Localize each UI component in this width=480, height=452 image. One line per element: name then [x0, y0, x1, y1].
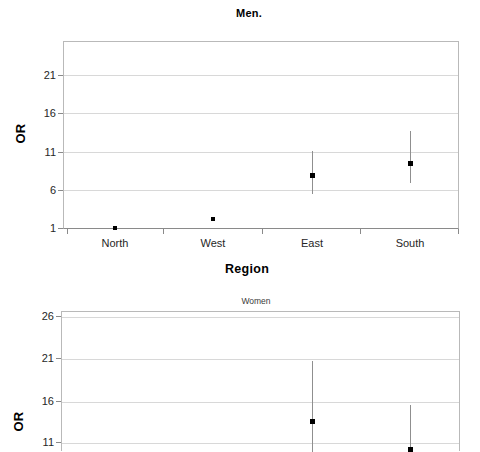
y-tick-label-women-26: 26	[28, 310, 54, 322]
gridline-women-26	[62, 317, 459, 318]
data-point-men-east	[310, 173, 315, 178]
plot-area-women	[61, 311, 460, 451]
gridline-men-21	[64, 75, 458, 76]
gridline-men-16	[64, 113, 458, 114]
gridline-women-16	[62, 402, 459, 403]
y-axis-title-men: OR	[13, 119, 28, 149]
y-tick-label-men-6: 6	[30, 184, 56, 196]
data-point-women-south	[408, 447, 413, 452]
gridline-women-21	[62, 359, 459, 360]
x-tick-label-men-east: East	[277, 237, 347, 249]
gridline-women-11	[62, 443, 459, 444]
x-axis-title-men: Region	[7, 262, 480, 276]
y-tick-label-men-11: 11	[30, 146, 56, 158]
x-tick-mark-men-3	[360, 229, 361, 234]
y-axis-title-women: OR	[11, 407, 26, 437]
y-tick-label-men-21: 21	[30, 69, 56, 81]
y-tick-label-men-16: 16	[30, 107, 56, 119]
x-tick-mark-men-0	[67, 229, 68, 234]
x-tick-mark-men-4	[458, 229, 459, 234]
data-point-men-north	[113, 226, 117, 230]
error-bar-women-east	[312, 361, 313, 452]
plot-area-men	[63, 41, 459, 229]
x-tick-mark-men-1	[163, 229, 164, 234]
x-tick-label-men-north: North	[80, 237, 150, 249]
panel-title-women: Women	[16, 296, 480, 306]
gridline-men-11	[64, 152, 458, 153]
error-bar-men-south	[410, 131, 411, 183]
error-bar-women-south	[410, 405, 411, 450]
y-tick-label-women-16: 16	[28, 395, 54, 407]
data-point-men-south	[408, 161, 413, 166]
panel-men: Men. OR 1 6 11 16 21	[0, 0, 480, 290]
y-tick-label-women-21: 21	[28, 352, 54, 364]
x-tick-label-men-south: South	[375, 237, 445, 249]
x-tick-label-men-west: West	[178, 237, 248, 249]
gridline-men-6	[64, 190, 458, 191]
panel-title-men: Men.	[9, 7, 480, 19]
panel-women: Women OR 11 16 21 26	[0, 290, 480, 449]
data-point-women-east	[310, 419, 315, 424]
y-tick-label-men-1: 1	[30, 222, 56, 234]
y-tick-label-women-11: 11	[28, 436, 54, 448]
x-tick-mark-men-2	[262, 229, 263, 234]
data-point-men-west	[211, 217, 215, 221]
